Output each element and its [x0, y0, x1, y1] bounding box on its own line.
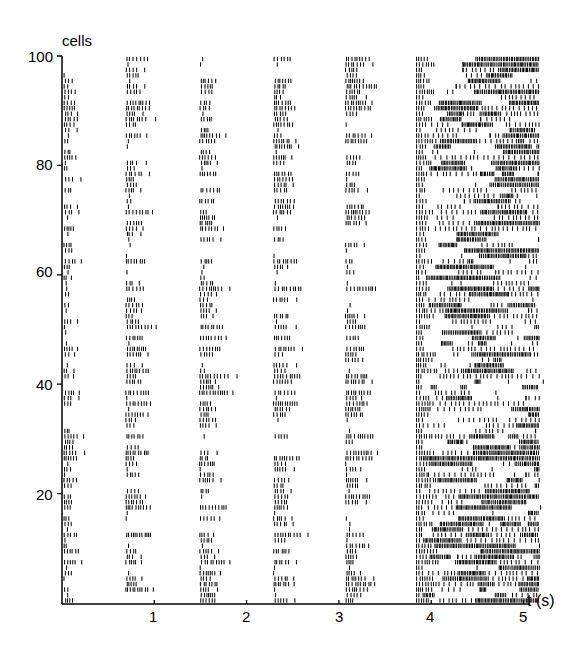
spike-trains — [64, 57, 543, 603]
raster-plot — [0, 0, 582, 653]
x-tick-label-3: 3 — [335, 609, 343, 624]
y-tick-label-60: 60 — [36, 264, 53, 279]
x-tick-label-4: 4 — [426, 609, 434, 624]
spike-raster — [64, 57, 543, 603]
y-axis-label: cells — [62, 33, 92, 48]
y-tick-label-20: 20 — [36, 487, 53, 502]
tick-marks — [57, 56, 524, 604]
y-tick-label-100: 100 — [28, 49, 53, 64]
x-tick-label-1: 1 — [149, 609, 157, 624]
x-tick-label-5: 5 — [519, 609, 527, 624]
x-axis-label: t (s) — [527, 593, 555, 609]
y-tick-label-80: 80 — [36, 157, 53, 172]
x-tick-label-2: 2 — [242, 609, 250, 624]
y-tick-label-40: 40 — [36, 377, 53, 392]
axis-ticks — [57, 56, 524, 604]
